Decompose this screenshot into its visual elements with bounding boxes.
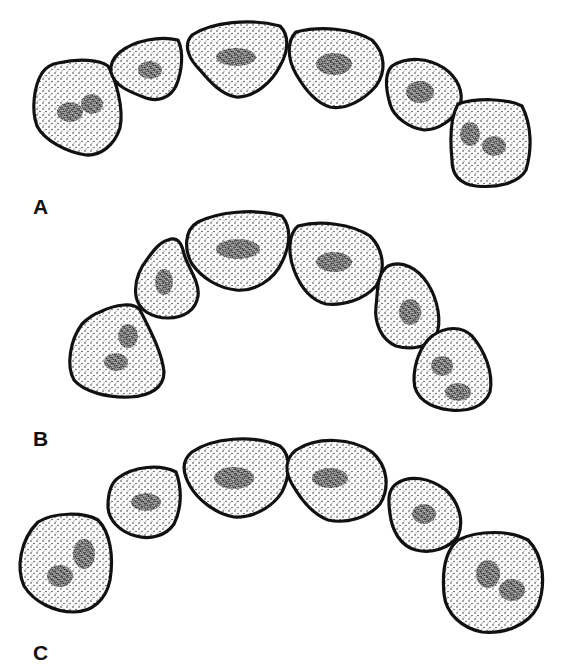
dental-arch-b [70,212,491,411]
occlusal-fissure-pattern [214,467,254,489]
occlusal-fissure-pattern [138,61,162,79]
tooth-incisor-right [289,29,383,108]
occlusal-fissure-pattern [476,560,500,588]
occlusal-fissure-pattern [399,299,421,325]
tooth-incisor-right [287,440,386,521]
occlusal-fissure-pattern [81,94,103,114]
tooth-incisor-right [290,223,382,304]
arches-group [20,22,542,632]
occlusal-fissure-pattern [73,539,95,569]
occlusal-fissure-pattern [216,239,260,259]
occlusal-fissure-pattern [155,269,173,295]
tooth-premolar-left [108,467,180,537]
tooth-premolar-left [111,39,182,100]
tooth-premolar-right [387,59,462,130]
tooth-molar-left [34,60,121,155]
occlusal-fissure-pattern [316,53,352,75]
tooth-molar-right [443,533,542,633]
tooth-incisor-left [184,439,288,517]
tooth-incisor-left [187,22,286,97]
tooth-molar-left [70,305,164,397]
occlusal-fissure-pattern [131,493,161,511]
occlusal-fissure-pattern [412,504,436,524]
panel-label-b: B [33,428,48,449]
occlusal-fissure-pattern [482,136,506,156]
panel-label-a: A [33,196,48,217]
occlusal-fissure-pattern [104,353,128,371]
occlusal-fissure-pattern [312,468,348,488]
tooth-premolar-right [376,264,439,348]
occlusal-fissure-pattern [431,356,453,376]
occlusal-fissure-pattern [445,383,471,401]
dental-arch-figure [0,0,563,671]
tooth-crown-outline [70,305,164,397]
occlusal-fissure-pattern [316,252,352,272]
dental-arch-a [34,22,530,187]
panel-label-c: C [33,642,48,663]
tooth-molar-left [20,514,111,612]
occlusal-fissure-pattern [47,565,73,587]
occlusal-fissure-pattern [460,122,480,146]
dental-arch-c [20,439,542,632]
tooth-incisor-left [187,212,289,290]
occlusal-fissure-pattern [57,102,83,122]
tooth-premolar-right [389,478,461,551]
occlusal-fissure-pattern [118,324,138,348]
tooth-molar-right [414,329,491,411]
occlusal-fissure-pattern [499,579,525,601]
occlusal-fissure-pattern [216,48,256,66]
occlusal-fissure-pattern [406,81,434,103]
tooth-molar-right [451,100,530,187]
